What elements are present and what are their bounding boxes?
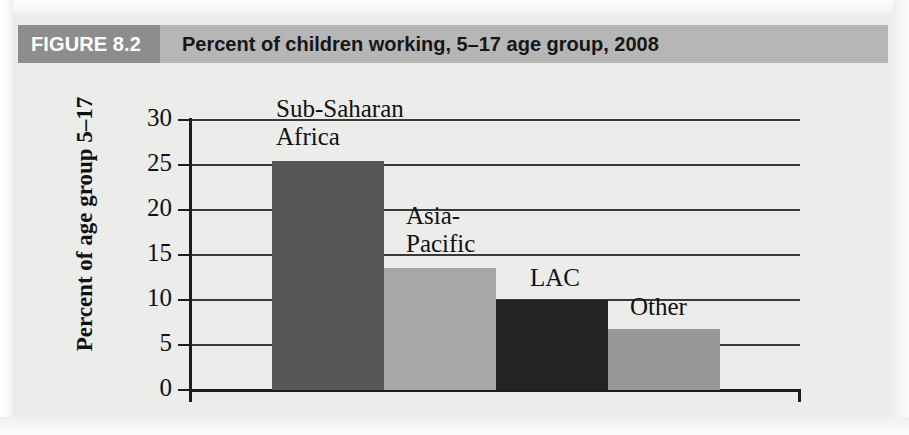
x-axis-tick-left — [189, 389, 192, 402]
bar-label-lac: LAC — [530, 264, 580, 292]
bar-other — [608, 329, 720, 390]
bar-label-other: Other — [630, 293, 687, 321]
bar-label-asia-pacific: Asia- Pacific — [406, 202, 475, 258]
bar-asia-pacific — [384, 268, 496, 390]
bar-sub-saharan-africa — [272, 161, 384, 390]
figure-title-wrap: Percent of children working, 5–17 age gr… — [160, 25, 888, 63]
figure-number-box: FIGURE 8.2 — [18, 25, 160, 63]
figure-container: FIGURE 8.2 Percent of children working, … — [0, 0, 909, 435]
figure-title: Percent of children working, 5–17 age gr… — [182, 33, 659, 56]
bar-lac — [496, 300, 608, 390]
chart-plot-area: Percent of age group 5–17 051015202530 S… — [0, 63, 909, 435]
figure-title-band: FIGURE 8.2 Percent of children working, … — [18, 25, 888, 63]
x-axis-tick-right — [798, 389, 801, 402]
bar-label-sub-saharan-africa: Sub-Saharan Africa — [276, 95, 404, 151]
figure-number-label: FIGURE 8.2 — [31, 33, 141, 56]
page-edge-top — [0, 0, 909, 14]
